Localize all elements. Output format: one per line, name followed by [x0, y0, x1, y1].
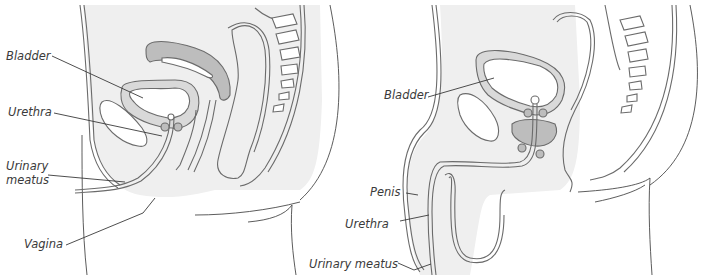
label-female-vagina: Vagina	[24, 238, 63, 251]
label-male-urethra: Urethra	[345, 218, 389, 231]
label-female-bladder: Bladder	[6, 50, 51, 63]
label-female-urinary-meatus-line1: Urinary	[6, 160, 48, 173]
label-male-urinary-meatus: Urinary meatus	[309, 258, 398, 271]
female-anatomy-diagram	[0, 0, 704, 278]
label-female-urinary-meatus-line2: meatus	[6, 174, 49, 187]
label-male-penis: Penis	[370, 186, 401, 199]
label-male-bladder: Bladder	[384, 89, 429, 102]
label-female-urethra: Urethra	[8, 106, 52, 119]
